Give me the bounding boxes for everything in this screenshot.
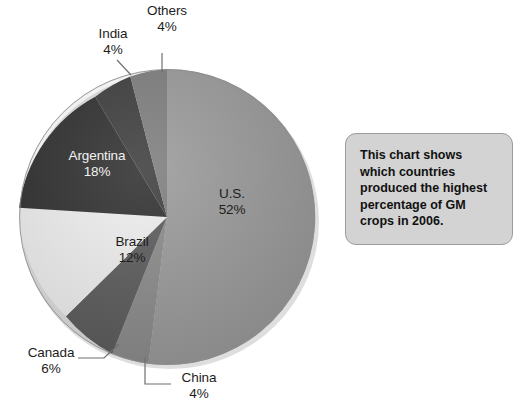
pie-label-others: Others 4% <box>134 3 200 34</box>
pie-label-others-name: Others <box>147 3 187 18</box>
pie-shading-overlay <box>19 69 315 365</box>
pie-label-china-value: 4% <box>168 386 230 402</box>
pie-label-brazil: Brazil 12% <box>96 234 168 265</box>
pie-label-china: China 4% <box>168 370 230 401</box>
pie-label-us-name: U.S. <box>219 186 245 201</box>
leader-line-india <box>117 60 131 75</box>
pie-label-us-value: 52% <box>196 202 268 218</box>
pie-label-us: U.S. 52% <box>196 186 268 217</box>
pie-label-china-name: China <box>182 370 217 385</box>
pie-label-canada-name: Canada <box>28 345 75 360</box>
pie-label-canada: Canada 6% <box>14 345 88 376</box>
pie-label-brazil-name: Brazil <box>115 234 148 249</box>
pie-label-argentina: Argentina 18% <box>47 148 147 179</box>
pie-label-argentina-value: 18% <box>47 164 147 180</box>
pie-label-others-value: 4% <box>134 19 200 35</box>
pie-label-argentina-name: Argentina <box>69 148 126 163</box>
pie-label-canada-value: 6% <box>14 361 88 377</box>
pie-label-india-name: India <box>99 26 128 41</box>
chart-caption-box: This chart shows which countries produce… <box>345 133 513 245</box>
chart-caption-text: This chart shows which countries produce… <box>360 147 498 230</box>
pie-label-india-value: 4% <box>82 42 144 58</box>
pie-label-brazil-value: 12% <box>96 250 168 266</box>
